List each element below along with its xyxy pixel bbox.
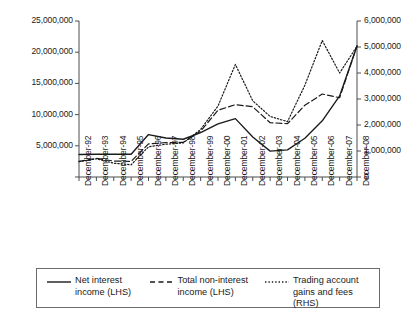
x-axis-tick-label: December-98: [187, 136, 197, 186]
legend-swatch-solid-icon: [46, 276, 72, 287]
x-axis-tick-label: December-05: [309, 136, 319, 186]
x-axis-tick-label: December-94: [118, 136, 128, 186]
x-axis-tick-label: December-07: [344, 136, 354, 186]
right-axis-tick-label: 5,000,000: [364, 41, 401, 51]
x-axis-tick-label: December-97: [170, 136, 180, 186]
x-axis-tick-label: December-96: [153, 136, 163, 186]
x-axis-tick-label: December-99: [205, 136, 215, 186]
right-axis-tick-label: 3,000,000: [364, 93, 401, 103]
right-axis-tick-label: 2,000,000: [364, 119, 401, 129]
x-axis-tick-label: December-08: [361, 136, 371, 186]
legend-label: Trading account gains and fees (RHS): [293, 275, 371, 310]
left-axis-tick-label: 5,000,000: [36, 140, 73, 150]
right-axis-tick-label: 6,000,000: [364, 15, 401, 25]
legend-item: Trading account gains and fees (RHS): [264, 275, 371, 310]
legend-swatch-dashed-icon: [149, 276, 175, 287]
legend-item: Net interest income (LHS): [46, 275, 149, 298]
legend-label: Net interest income (LHS): [75, 275, 131, 298]
x-axis-tick-label: December-06: [326, 136, 336, 186]
chart-figure: 5,000,00010,000,00015,000,00020,000,0002…: [0, 0, 416, 317]
right-axis-tick-label: 4,000,000: [364, 67, 401, 77]
left-axis-tick-label: 10,000,000: [31, 109, 73, 119]
x-axis-tick-label: December-93: [100, 136, 110, 186]
x-axis-tick-label: December-04: [292, 136, 302, 186]
left-axis-tick-label: 20,000,000: [31, 46, 73, 56]
x-axis-tick-label: December-03: [274, 136, 284, 186]
legend-item: Total non-interest income (LHS): [149, 275, 264, 298]
left-axis-tick-label: 25,000,000: [31, 15, 73, 25]
legend-label: Total non-interest income (LHS): [178, 275, 248, 298]
x-axis-tick-label: December-02: [257, 136, 267, 186]
x-axis-tick-label: December-92: [83, 136, 93, 186]
x-axis-tick-label: December-01: [239, 136, 249, 186]
x-axis-tick-label: December-00: [222, 136, 232, 186]
x-axis-tick-label: December-95: [135, 136, 145, 186]
chart-legend: Net interest income (LHS)Total non-inter…: [36, 268, 380, 308]
legend-swatch-dotted-icon: [264, 276, 290, 287]
left-axis-tick-label: 15,000,000: [31, 77, 73, 87]
